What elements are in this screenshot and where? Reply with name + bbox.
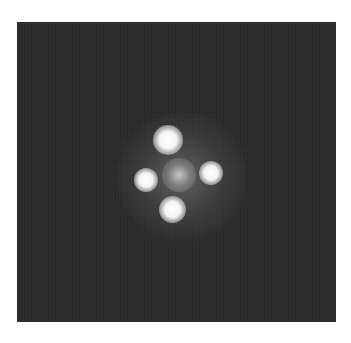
quasar-image-bottom — [159, 196, 186, 223]
quasar-image-right — [199, 161, 223, 185]
astronomical-image-frame — [17, 22, 336, 322]
quasar-image-left — [134, 168, 158, 192]
central-galaxy — [162, 158, 196, 192]
quasar-image-top — [153, 125, 183, 155]
